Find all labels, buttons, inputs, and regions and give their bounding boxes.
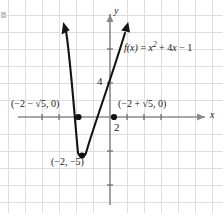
y-axis-label: y: [114, 6, 118, 16]
x-tick-label-2: 2: [114, 122, 120, 133]
graph-figure: x y 4 2 f(x) = x2 + 4x − 1 (−2 − √5, 0) …: [0, 0, 223, 213]
left-root-point: [75, 114, 81, 120]
function-label-term3: − 1: [177, 42, 193, 53]
right-root-label-close: , 0): [153, 98, 166, 109]
function-label-term2: + 4: [157, 42, 173, 53]
right-root-label-radical: √5: [143, 98, 154, 109]
vertex-label: (−2, −5): [51, 157, 84, 167]
left-root-label-open: (−2 −: [11, 98, 36, 109]
right-root-label: (−2 + √5, 0): [118, 99, 166, 109]
right-root-label-open: (−2 +: [118, 98, 143, 109]
right-branch-arrowhead: [121, 22, 130, 33]
function-label-equals: =: [138, 42, 149, 53]
left-root-label: (−2 − √5, 0): [11, 99, 59, 109]
x-axis-label: x: [210, 110, 214, 120]
function-label-arg: (x): [127, 42, 138, 53]
left-root-label-radical: √5: [36, 98, 47, 109]
right-root-point: [111, 114, 117, 120]
left-root-label-close: , 0): [46, 98, 59, 109]
function-label: f(x) = x2 + 4x − 1: [124, 42, 192, 53]
y-tick-label-4: 4: [97, 76, 103, 87]
